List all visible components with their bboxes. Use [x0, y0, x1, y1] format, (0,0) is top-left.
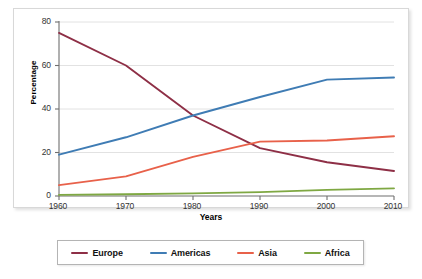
legend-label-americas: Americas	[171, 248, 211, 258]
x-axis-title: Years	[0, 212, 422, 222]
legend-item-americas[interactable]: Americas	[150, 248, 211, 258]
x-tick-label: 2000	[309, 201, 343, 211]
series-line-africa	[59, 188, 394, 195]
legend-item-africa[interactable]: Africa	[304, 248, 350, 258]
series-line-europe	[59, 33, 394, 171]
legend-swatch-europe	[71, 252, 88, 254]
x-tick-label: 1990	[242, 201, 276, 211]
legend-label-africa: Africa	[325, 248, 350, 258]
series-line-americas	[59, 77, 394, 154]
y-axis-title: Percentage	[29, 38, 38, 128]
legend-swatch-americas	[150, 252, 167, 254]
y-tick-label: 20	[27, 147, 51, 157]
series-line-asia	[59, 136, 394, 185]
x-tick-label: 1980	[175, 201, 209, 211]
legend-label-asia: Asia	[258, 248, 277, 258]
x-tick-label: 1960	[41, 201, 75, 211]
legend-item-asia[interactable]: Asia	[237, 248, 277, 258]
y-tick-label: 0	[27, 190, 51, 200]
plot-area	[14, 9, 408, 207]
line-chart-svg	[14, 9, 410, 209]
chart-card	[13, 8, 409, 208]
x-tick-label: 1970	[108, 201, 142, 211]
chart-legend: Europe Americas Asia Africa	[57, 240, 364, 265]
legend-swatch-africa	[304, 252, 321, 254]
x-tick-label: 2010	[376, 201, 410, 211]
y-tick-label: 80	[27, 16, 51, 26]
legend-label-europe: Europe	[92, 248, 122, 258]
legend-swatch-asia	[237, 252, 254, 254]
y-tick-label: 60	[27, 60, 51, 70]
legend-item-europe[interactable]: Europe	[71, 248, 122, 258]
y-tick-label: 40	[27, 103, 51, 113]
